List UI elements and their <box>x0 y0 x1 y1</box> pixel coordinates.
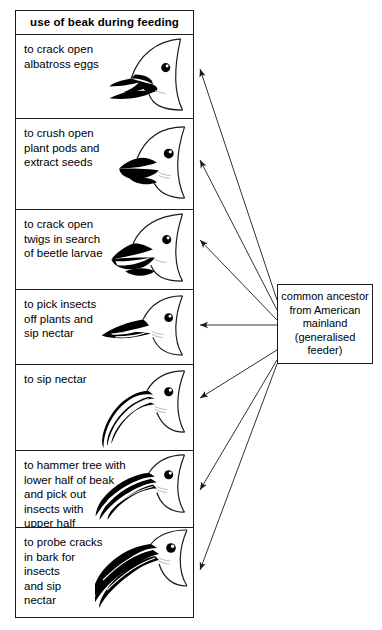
panel-beetle-larvae: to crack open twigs in search of beetle … <box>16 210 193 290</box>
slender-pointed-beak-icon <box>95 290 191 364</box>
stout-wedge-beak-icon <box>95 210 191 289</box>
arrow-to-beetle-larvae <box>200 240 277 320</box>
panel-pick-insects: to pick insects off plants and sip necta… <box>16 290 193 365</box>
panel-label: to crush open plant pods and extract see… <box>24 126 99 170</box>
panel-label: to pick insects off plants and sip necta… <box>24 297 96 341</box>
beak-adaptation-diagram: use of beak during feeding to crack open… <box>0 0 382 630</box>
panel-label: to crack open twigs in search of beetle … <box>24 217 103 261</box>
long-curved-beak-icon <box>95 365 191 450</box>
panel-plant-pods: to crush open plant pods and extract see… <box>16 119 193 210</box>
very-long-decurved-beak-icon <box>95 528 191 617</box>
thick-conical-beak-icon <box>95 35 191 118</box>
panel-label: to probe cracks in bark for insects and … <box>24 535 103 608</box>
panel-hammer-tree: to hammer tree with lower half of beak a… <box>16 451 193 528</box>
panel-label: to crack open albatross eggs <box>24 42 99 71</box>
arrow-to-sip-nectar <box>200 350 277 398</box>
panel-label: to hammer tree with lower half of beak a… <box>24 458 126 528</box>
panel-sip-nectar: to sip nectar <box>16 365 193 451</box>
common-ancestor-box: common ancestor from American mainland (… <box>277 284 373 364</box>
common-ancestor-label: common ancestor from American mainland (… <box>281 290 368 358</box>
column-header-label: use of beak during feeding <box>30 17 179 29</box>
arrow-to-plant-pods <box>200 160 277 310</box>
panel-albatross-eggs: to crack open albatross eggs <box>16 35 193 119</box>
heavy-crushing-beak-icon <box>95 119 191 209</box>
panel-probe-bark: to probe cracks in bark for insects and … <box>16 528 193 617</box>
arrow-to-hammer-tree <box>200 360 277 490</box>
column-header: use of beak during feeding <box>16 11 193 35</box>
arrow-to-albatross-eggs <box>200 69 277 300</box>
panel-label: to sip nectar <box>24 372 87 387</box>
beak-panel-column: use of beak during feeding to crack open… <box>15 10 194 618</box>
arrow-to-probe-bark <box>200 364 277 570</box>
